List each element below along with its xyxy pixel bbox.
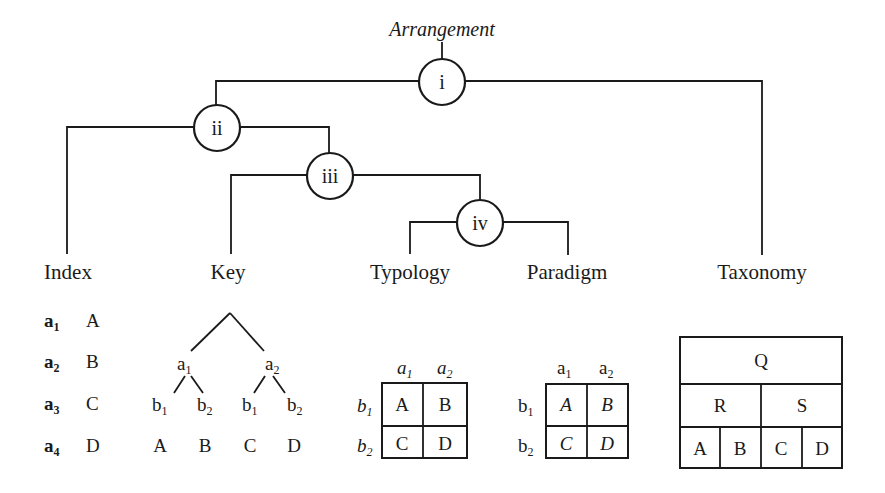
index-value: B [86,351,99,372]
edge-i-taxonomy [465,81,762,255]
typology-cell: A [395,394,409,415]
node-ii: ii [194,105,240,151]
leaf-typology: Typology [370,260,451,284]
node-label: ii [211,117,223,139]
edge-iii-key [231,175,307,254]
leaf-paradigm: Paradigm [527,260,607,284]
edge-ii-index [67,127,194,254]
leaf-index: Index [44,260,92,284]
paradigm-cell: D [599,433,614,454]
paradigm-example: a1 a2 b1 b2 A B C D [518,357,628,459]
taxonomy-r: R [714,395,727,416]
key-edge [230,313,264,351]
paradigm-col-a1: a1 [557,357,571,381]
key-edge [174,376,185,393]
taxonomy-example: Q R S A B C D [680,337,842,468]
taxonomy-leaf: A [693,438,707,459]
index-row: a4 D [44,435,100,459]
arrangement-diagram: Arrangement i ii iii iv Index Key Typolo… [0,0,885,493]
taxonomy-leaf: D [815,438,829,459]
key-a1: a1 [177,353,191,377]
key-edge [191,313,230,351]
edge-i-ii [216,81,419,105]
paradigm-cell: C [560,433,573,454]
key-edge [191,376,203,393]
taxonomy-leaf: B [734,438,747,459]
paradigm-row-b1: b1 [518,395,534,419]
node-i: i [419,59,465,105]
paradigm-row-b2: b2 [518,435,534,459]
edge-ii-iii [240,127,329,153]
typology-col-a2: a2 [437,357,453,381]
taxonomy-root: Q [754,350,768,371]
node-iii: iii [307,153,353,199]
svg-text:a1: a1 [44,310,60,334]
typology-row-b2: b2 [357,435,373,459]
key-leaf: C [244,435,257,456]
typology-cell: B [439,394,452,415]
node-label: iii [322,165,339,187]
svg-text:a2: a2 [44,351,60,375]
index-value: A [86,310,100,331]
key-a2: a2 [265,353,279,377]
index-example: a1 A a2 B a3 C a4 D [44,310,100,459]
edge-iv-paradigm [503,222,568,255]
key-b: b1 [242,394,258,418]
key-leaf: A [153,435,167,456]
paradigm-cell: A [558,394,572,415]
key-b: b2 [287,394,303,418]
node-label: i [439,71,445,93]
leaf-taxonomy: Taxonomy [717,260,807,284]
diagram-title: Arrangement [387,18,495,41]
svg-text:a4: a4 [44,435,60,459]
typology-col-a1: a1 [397,357,413,381]
index-row: a2 B [44,351,99,375]
tree-edges [67,81,762,255]
paradigm-col-a2: a2 [599,357,613,381]
key-b: b2 [197,394,213,418]
index-value: C [86,393,99,414]
paradigm-cell: B [601,394,613,415]
key-leaf: D [287,435,301,456]
svg-text:a3: a3 [44,393,60,417]
index-row: a1 A [44,310,100,334]
typology-cell: C [396,433,409,454]
typology-example: a1 a2 b1 b2 A B C D [357,357,467,459]
key-edge [254,376,265,393]
node-label: iv [472,212,488,234]
typology-row-b1: b1 [357,395,373,419]
key-leaf: B [199,435,212,456]
key-example: a1 a2 b1 b2 b1 b2 A B C D [152,313,303,456]
taxonomy-s: S [797,395,808,416]
key-edge [273,376,285,393]
edge-iii-iv [353,175,480,200]
leaf-key: Key [211,260,246,284]
taxonomy-leaf: C [775,438,788,459]
index-row: a3 C [44,393,99,417]
index-value: D [86,435,100,456]
key-b: b1 [152,394,168,418]
node-iv: iv [457,200,503,246]
typology-cell: D [438,433,452,454]
edge-iv-typology [410,222,457,254]
